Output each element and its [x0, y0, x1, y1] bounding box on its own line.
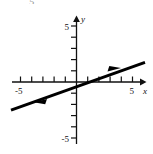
graph-svg: -5 5 5 -5 x y [0, 0, 153, 154]
x-axis-label: x [142, 86, 147, 96]
y-tick-label-positive-five: 5 [65, 22, 70, 32]
y-tick-label-negative-five: -5 [62, 134, 70, 144]
x-tick-label-positive-five: 5 [130, 86, 135, 96]
x-tick-label-negative-five: -5 [15, 86, 23, 96]
stray-glyph-artifact: 5 [29, 0, 39, 4]
y-axis-label: y [80, 14, 85, 24]
coordinate-graph-figure: 5 [0, 0, 153, 154]
